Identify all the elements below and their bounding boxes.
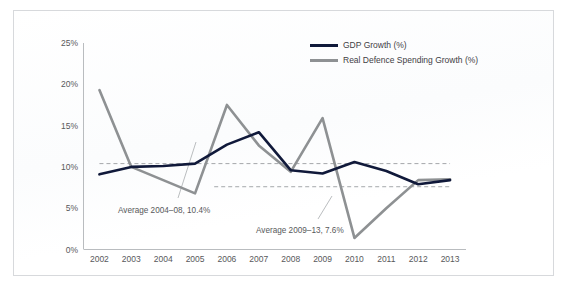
x-tick-2012: 2012: [401, 254, 435, 264]
x-tick-2002: 2002: [82, 254, 116, 264]
x-tick-2010: 2010: [337, 254, 371, 264]
x-tick-2006: 2006: [210, 254, 244, 264]
legend-label-real-defence-spending-growth: Real Defence Spending Growth (%): [343, 55, 478, 65]
y-tick-0pct: 0%: [46, 245, 78, 255]
legend-swatch-gdp-growth: [310, 44, 338, 47]
x-tick-2013: 2013: [433, 254, 467, 264]
x-tick-2009: 2009: [306, 254, 340, 264]
y-tick-5pct: 5%: [46, 203, 78, 213]
x-tick-2008: 2008: [274, 254, 308, 264]
chart-plot: [0, 0, 567, 286]
x-tick-2007: 2007: [242, 254, 276, 264]
legend-item-gdp-growth[interactable]: GDP Growth (%): [310, 40, 407, 50]
y-tick-20pct: 20%: [46, 79, 78, 89]
y-tick-25pct: 25%: [46, 38, 78, 48]
chart-figure: 0%5%10%15%20%25% 20022003200420052006200…: [0, 0, 567, 286]
y-tick-15pct: 15%: [46, 121, 78, 131]
annotation-average-2009-13: Average 2009–13, 7.6%: [256, 226, 344, 235]
x-tick-2004: 2004: [146, 254, 180, 264]
x-tick-2003: 2003: [114, 254, 148, 264]
x-tick-2005: 2005: [178, 254, 212, 264]
legend-item-real-defence-spending-growth[interactable]: Real Defence Spending Growth (%): [310, 55, 478, 65]
annotation-average-2004-08: Average 2004–08, 10.4%: [118, 206, 210, 215]
leader-line-2009-13: [318, 196, 332, 219]
y-tick-10pct: 10%: [46, 162, 78, 172]
x-tick-2011: 2011: [369, 254, 403, 264]
chart-axes: [84, 43, 467, 250]
legend-label-gdp-growth: GDP Growth (%): [343, 40, 407, 50]
legend-swatch-real-defence-spending-growth: [310, 59, 338, 62]
